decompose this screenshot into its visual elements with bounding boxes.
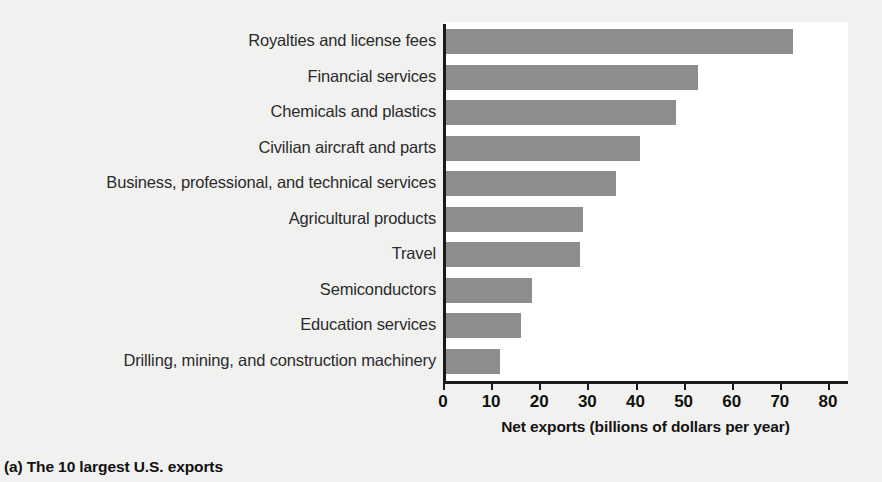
bar [443,207,583,232]
bar [443,65,698,90]
x-tick [828,382,830,390]
figure-caption: (a)The 10 largest U.S. exports [4,458,223,476]
y-axis-line [443,24,446,382]
bar-chart-figure: Royalties and license feesFinancial serv… [0,0,882,482]
x-tick [636,382,638,390]
bar [443,349,500,374]
category-label: Semiconductors [0,281,436,298]
x-axis-title: Net exports (billions of dollars per yea… [443,418,848,436]
x-tick [587,382,589,390]
caption-letter: (a) [4,458,23,475]
x-tick [684,382,686,390]
category-label: Drilling, mining, and construction machi… [0,352,436,369]
bar [443,313,521,338]
category-axis-labels: Royalties and license feesFinancial serv… [0,25,436,380]
x-tick-label: 80 [798,392,858,411]
category-label: Agricultural products [0,210,436,227]
bar [443,136,640,161]
bar [443,242,580,267]
category-label: Education services [0,316,436,333]
category-label: Business, professional, and technical se… [0,174,436,191]
x-tick [780,382,782,390]
bar [443,171,616,196]
category-label: Financial services [0,68,436,85]
category-label: Royalties and license fees [0,32,436,49]
caption-text: The 10 largest U.S. exports [27,458,223,475]
x-tick [491,382,493,390]
category-label: Travel [0,245,436,262]
x-axis-line [443,381,848,384]
x-tick [443,382,445,390]
bars-layer [443,25,848,380]
bar [443,100,676,125]
bar [443,29,793,54]
category-label: Civilian aircraft and parts [0,139,436,156]
bar [443,278,532,303]
x-tick [732,382,734,390]
category-label: Chemicals and plastics [0,103,436,120]
x-tick [539,382,541,390]
